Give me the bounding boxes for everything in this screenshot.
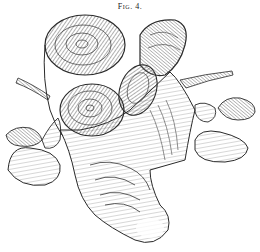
tumor-upper-left (45, 15, 125, 75)
right-ovary (195, 98, 255, 162)
right-ligament (180, 71, 233, 88)
left-ovary (6, 118, 61, 185)
engraving-illustration (0, 0, 260, 252)
figure-page: Fig. 4. (0, 0, 260, 252)
tumor-middle-left (60, 84, 124, 136)
